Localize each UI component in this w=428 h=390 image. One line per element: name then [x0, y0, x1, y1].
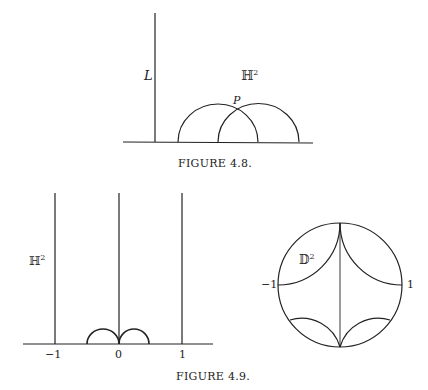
figures-canvas — [0, 0, 428, 390]
fig49-disk-space-exponent: 2 — [309, 252, 314, 261]
fig49-disk-geodesic-top-right — [340, 223, 402, 285]
fig49-semicircle-right — [119, 329, 149, 344]
fig48-baseline — [123, 142, 313, 143]
fig48-semicircle-right — [218, 104, 299, 142]
fig49-disk-space-symbol: 𝔻 — [299, 253, 309, 267]
fig49-halfplane-space-exponent: 2 — [40, 253, 45, 262]
fig48-space-symbol: ℍ — [241, 68, 253, 83]
fig49-caption: FIGURE 4.9. — [176, 370, 250, 383]
fig49-halfplane-space-label: ℍ2 — [29, 253, 45, 268]
fig49-disk-geodesic-bottom-left-cap — [290, 318, 340, 347]
fig48-space-exponent: 2 — [253, 68, 258, 77]
fig49-tick-minus1: −1 — [45, 348, 61, 361]
fig49-disk-right-label: 1 — [407, 278, 414, 291]
fig48-line-label: L — [144, 68, 153, 83]
fig49-disk-space-label: 𝔻2 — [299, 252, 315, 267]
fig48-space-label: ℍ2 — [241, 68, 258, 83]
fig48-point-label: P — [233, 94, 240, 107]
fig49-tick-1: 1 — [179, 348, 186, 361]
fig49-halfplane-space-symbol: ℍ — [29, 254, 40, 268]
fig49-disk-geodesic-bottom-right-cap — [340, 318, 390, 347]
fig49-disk-left-label: −1 — [261, 278, 277, 291]
fig49-semicircle-left — [87, 329, 119, 344]
fig48-caption: FIGURE 4.8. — [178, 157, 252, 170]
fig49-tick-0: 0 — [115, 348, 122, 361]
